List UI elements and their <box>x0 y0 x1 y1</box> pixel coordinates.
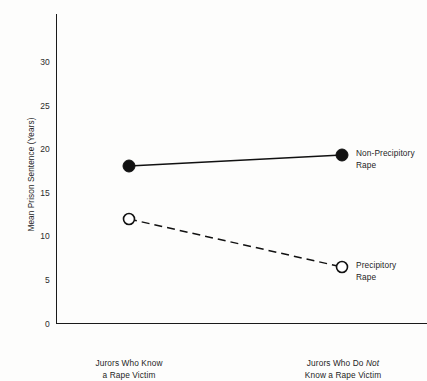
data-point-precipitory-not-know <box>337 262 348 273</box>
y-axis-title: Mean Prison Sentence (Years) <box>27 100 36 250</box>
data-point-non-precipitory-know <box>123 160 135 172</box>
y-tick-20: 20 <box>26 144 50 154</box>
y-tick-10: 10 <box>26 231 50 241</box>
series-line-precipitory <box>129 219 342 267</box>
chart-figure: Mean Prison Sentence (Years) 05101520253… <box>0 0 427 381</box>
series-label-non-precipitory: Non-Precipitory Rape <box>356 148 415 171</box>
x-axis-category-label-know: Jurors Who Knowa Rape Victim <box>54 358 204 381</box>
series-line-non-precipitory <box>129 155 342 166</box>
y-tick-15: 15 <box>26 188 50 198</box>
y-tick-5: 5 <box>26 275 50 285</box>
data-point-precipitory-know <box>124 214 135 225</box>
x-axis-category-label-not-know: Jurors Who Do NotKnow a Rape Victim <box>268 358 418 381</box>
y-tick-0: 0 <box>26 319 50 329</box>
chart-canvas <box>0 0 427 381</box>
y-tick-25: 25 <box>26 101 50 111</box>
y-tick-30: 30 <box>26 57 50 67</box>
data-point-non-precipitory-not-know <box>336 149 348 161</box>
series-label-precipitory: Precipitory Rape <box>356 260 396 283</box>
